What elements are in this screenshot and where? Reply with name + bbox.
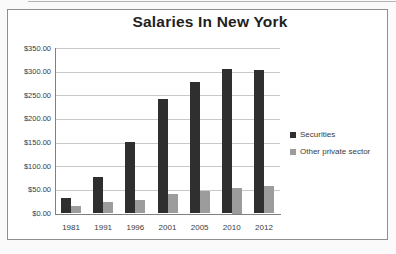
bar-securities-2005 bbox=[190, 82, 200, 214]
bar-securities-1991 bbox=[93, 177, 103, 213]
x-category-label-1991: 1991 bbox=[87, 223, 119, 232]
legend-item-other-private-sector: Other private sector bbox=[290, 147, 370, 156]
legend-marker-icon bbox=[290, 149, 296, 155]
gridline-300 bbox=[55, 72, 280, 73]
legend-label: Securities bbox=[300, 130, 335, 139]
bar-securities-2001 bbox=[158, 99, 168, 213]
bar-securities-1996 bbox=[125, 142, 135, 214]
y-tick-label-350: $350.00 bbox=[8, 44, 51, 53]
x-category-label-2010: 2010 bbox=[216, 223, 248, 232]
screenshot-root: Salaries In New York SecuritiesOther pri… bbox=[0, 0, 396, 254]
x-category-label-1981: 1981 bbox=[55, 223, 87, 232]
x-axis-line bbox=[55, 214, 281, 215]
y-tick-label-100: $100.00 bbox=[8, 162, 51, 171]
gridline-250 bbox=[55, 95, 280, 96]
legend-marker-icon bbox=[290, 132, 296, 138]
gridline-50 bbox=[55, 190, 280, 191]
y-tick-label-250: $250.00 bbox=[8, 91, 51, 100]
y-tick-label-200: $200.00 bbox=[8, 114, 51, 123]
y-tick-label-150: $150.00 bbox=[8, 138, 51, 147]
y-tick-label-300: $300.00 bbox=[8, 67, 51, 76]
y-tick-label-0: $0.00 bbox=[8, 209, 51, 218]
y-tick-label-50: $50.00 bbox=[8, 185, 51, 194]
legend-item-securities: Securities bbox=[290, 130, 335, 139]
x-category-label-2012: 2012 bbox=[248, 223, 280, 232]
bar-other-private-sector-2005 bbox=[200, 191, 210, 214]
screen-edge-line bbox=[28, 1, 396, 2]
bar-other-private-sector-1981 bbox=[71, 206, 81, 213]
gridline-150 bbox=[55, 143, 280, 144]
bar-securities-2010 bbox=[222, 69, 232, 213]
bar-other-private-sector-2010 bbox=[232, 188, 242, 214]
bar-other-private-sector-2001 bbox=[168, 194, 178, 214]
x-category-label-2001: 2001 bbox=[151, 223, 183, 232]
gridline-200 bbox=[55, 119, 280, 120]
chart-title: Salaries In New York bbox=[40, 13, 380, 31]
bar-other-private-sector-2012 bbox=[264, 186, 274, 213]
y-axis-line bbox=[55, 48, 56, 214]
bar-other-private-sector-1996 bbox=[135, 200, 145, 213]
x-category-label-1996: 1996 bbox=[119, 223, 151, 232]
legend-label: Other private sector bbox=[300, 147, 370, 156]
gridline-350 bbox=[55, 48, 280, 49]
bar-other-private-sector-1991 bbox=[103, 202, 113, 213]
x-category-label-2005: 2005 bbox=[184, 223, 216, 232]
gridline-100 bbox=[55, 166, 280, 167]
bar-securities-1981 bbox=[61, 198, 71, 213]
bar-securities-2012 bbox=[254, 70, 264, 213]
